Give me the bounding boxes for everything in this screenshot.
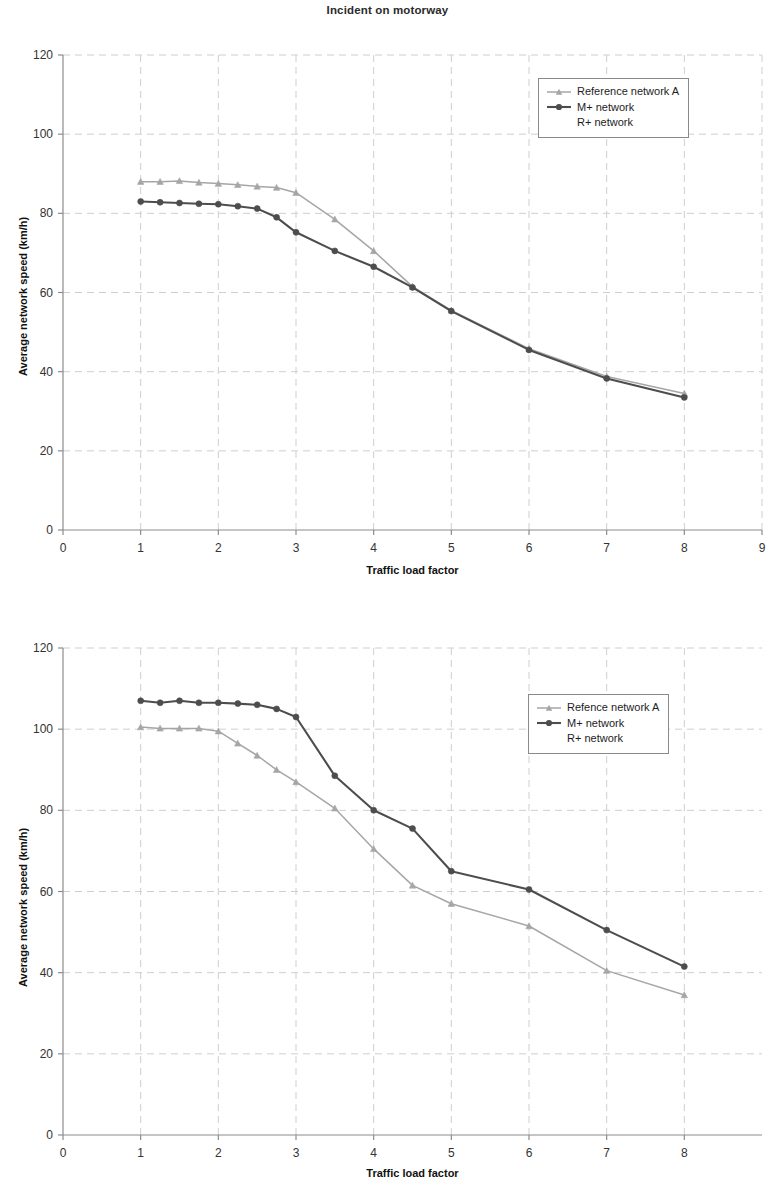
plot-area-regional: 020406080100120012345678 [0,592,775,1184]
svg-text:120: 120 [33,641,53,655]
figure-incident-on-motorway: Incident on motorway 0204060801001200123… [0,0,775,592]
legend-item-3: R+ network [546,115,679,131]
svg-text:80: 80 [40,206,54,220]
legend-item-label: M+ network [567,716,624,732]
svg-text:4: 4 [370,541,377,555]
legend-item-2: M+ network [546,100,679,116]
legend-marker-triangle-icon [546,86,572,98]
svg-text:0: 0 [60,541,67,555]
svg-text:2: 2 [215,1146,222,1160]
y-axis-title-regional: Average network speed (km/h) [17,828,29,987]
svg-text:60: 60 [40,885,54,899]
svg-text:9: 9 [759,541,766,555]
svg-text:0: 0 [60,1146,67,1160]
svg-text:1: 1 [137,1146,144,1160]
svg-text:0: 0 [46,523,53,537]
chart-svg-regional: 020406080100120012345678 [0,592,775,1184]
svg-text:2: 2 [215,541,222,555]
legend-item-1: Reference network A [546,84,679,100]
x-axis-title-regional: Traffic load factor [63,1167,762,1179]
svg-text:6: 6 [526,541,533,555]
legend-marker-triangle-icon [536,702,562,714]
x-axis-title-motorway: Traffic load factor [63,564,762,576]
legend-item-label: M+ network [577,100,634,116]
svg-text:40: 40 [40,966,54,980]
svg-text:7: 7 [603,541,610,555]
legend-item-3: R+ network [536,731,659,747]
legend-motorway: Reference network AM+ networkR+ network [538,78,689,138]
y-axis-title-motorway: Average network speed (km/h) [17,217,29,376]
legend-regional: Refence network AM+ networkR+ network [528,694,669,754]
legend-item-label: R+ network [577,115,633,131]
svg-text:60: 60 [40,286,54,300]
svg-text:5: 5 [448,1146,455,1160]
svg-text:20: 20 [40,1047,54,1061]
svg-text:4: 4 [370,1146,377,1160]
legend-item-1: Refence network A [536,700,659,716]
svg-text:6: 6 [526,1146,533,1160]
legend-item-2: M+ network [536,716,659,732]
svg-text:100: 100 [33,127,53,141]
svg-text:1: 1 [137,541,144,555]
svg-text:5: 5 [448,541,455,555]
legend-item-label: R+ network [567,731,623,747]
figure-incident-on-regional-road: Incident on regional road 02040608010012… [0,592,775,1184]
legend-marker-circle-icon [536,717,562,729]
svg-text:80: 80 [40,803,54,817]
legend-item-label: Refence network A [567,700,659,716]
svg-text:3: 3 [293,541,300,555]
svg-text:8: 8 [681,541,688,555]
svg-text:8: 8 [681,1146,688,1160]
svg-text:7: 7 [603,1146,610,1160]
legend-item-label: Reference network A [577,84,679,100]
legend-marker-circle-icon [546,101,572,113]
svg-text:40: 40 [40,365,54,379]
svg-text:3: 3 [293,1146,300,1160]
svg-text:20: 20 [40,444,54,458]
svg-text:120: 120 [33,48,53,62]
svg-text:100: 100 [33,722,53,736]
svg-text:0: 0 [46,1128,53,1142]
